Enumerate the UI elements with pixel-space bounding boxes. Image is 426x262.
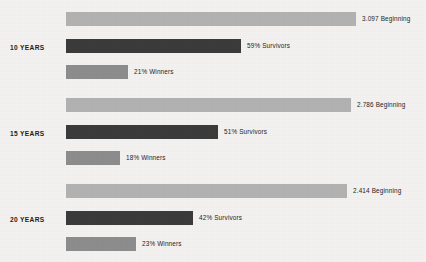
bar-row-beginning: 2.786 Beginning bbox=[0, 98, 426, 112]
bar-winners bbox=[66, 65, 128, 79]
bar-row-winners: 18% Winners bbox=[0, 151, 426, 165]
bar-label-beginning: 2.786 Beginning bbox=[357, 98, 405, 112]
bar-label-winners: 18% Winners bbox=[126, 151, 166, 165]
bar-winners bbox=[66, 151, 120, 165]
bar-winners bbox=[66, 237, 136, 251]
bar-survivors bbox=[66, 39, 241, 53]
bar-label-winners: 21% Winners bbox=[134, 65, 174, 79]
bar-row-winners: 21% Winners bbox=[0, 65, 426, 79]
bar-label-winners: 23% Winners bbox=[142, 237, 182, 251]
bar-row-survivors: 42% Survivors bbox=[0, 211, 426, 225]
chart-group-10-years: 10 YEARS 3.097 Beginning 59% Survivors 2… bbox=[0, 12, 426, 86]
bar-chart: 10 YEARS 3.097 Beginning 59% Survivors 2… bbox=[0, 0, 426, 262]
bar-row-survivors: 51% Survivors bbox=[0, 125, 426, 139]
bar-row-survivors: 59% Survivors bbox=[0, 39, 426, 53]
bar-beginning bbox=[66, 184, 347, 198]
bar-label-survivors: 51% Survivors bbox=[224, 125, 267, 139]
bar-beginning bbox=[66, 98, 351, 112]
bar-label-survivors: 59% Survivors bbox=[247, 39, 290, 53]
bar-beginning bbox=[66, 12, 356, 26]
bar-survivors bbox=[66, 211, 193, 225]
chart-group-15-years: 15 YEARS 2.786 Beginning 51% Survivors 1… bbox=[0, 98, 426, 172]
bar-label-beginning: 3.097 Beginning bbox=[362, 12, 410, 26]
bar-label-survivors: 42% Survivors bbox=[199, 211, 242, 225]
bar-row-winners: 23% Winners bbox=[0, 237, 426, 251]
bar-row-beginning: 3.097 Beginning bbox=[0, 12, 426, 26]
chart-group-20-years: 20 YEARS 2.414 Beginning 42% Survivors 2… bbox=[0, 184, 426, 258]
bar-row-beginning: 2.414 Beginning bbox=[0, 184, 426, 198]
bar-label-beginning: 2.414 Beginning bbox=[353, 184, 401, 198]
bar-survivors bbox=[66, 125, 218, 139]
